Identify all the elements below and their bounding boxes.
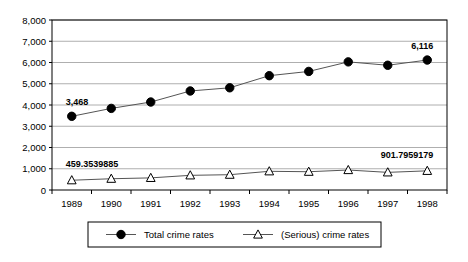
y-tick-label-5000: 5,000 <box>22 78 46 89</box>
data-label-4593539885: 459.3539885 <box>66 159 119 169</box>
data-point-marker <box>423 56 431 64</box>
series-line-1 <box>72 170 428 180</box>
data-point-marker <box>305 67 313 75</box>
y-tick-label-2000: 2,000 <box>22 142 46 153</box>
data-label-9017959179: 901.7959179 <box>381 150 434 160</box>
y-tick-label-7000: 7,000 <box>22 36 46 47</box>
chart-legend: Total crime rates(Serious) crime rates <box>88 222 381 247</box>
x-tick-label-1993: 1993 <box>219 198 240 209</box>
crime-rates-line-chart: 01,0002,0003,0004,0005,0006,0007,0008,00… <box>0 0 468 262</box>
x-tick-label-1992: 1992 <box>180 198 201 209</box>
data-point-marker <box>344 58 352 66</box>
data-label-6116: 6,116 <box>411 41 433 51</box>
data-label-3468: 3,468 <box>66 97 89 107</box>
data-point-marker <box>147 98 155 106</box>
y-tick-label-0: 0 <box>41 185 46 196</box>
x-tick-label-1991: 1991 <box>140 198 161 209</box>
y-tick-label-4000: 4,000 <box>22 100 46 111</box>
data-point-marker <box>68 112 76 120</box>
x-tick-label-1996: 1996 <box>338 198 359 209</box>
series-total-crime-rates: 3,4686,116 <box>66 41 434 120</box>
x-axis: 1989199019911992199319941995199619971998 <box>52 190 447 209</box>
x-tick-label-1997: 1997 <box>377 198 398 209</box>
x-tick-label-1989: 1989 <box>61 198 82 209</box>
data-point-marker <box>265 167 274 175</box>
data-point-marker <box>226 84 234 92</box>
legend-entry-total-crime-rates[interactable]: Total crime rates <box>106 229 214 240</box>
x-tick-label-1998: 1998 <box>417 198 438 209</box>
y-tick-label-8000: 8,000 <box>22 15 46 26</box>
data-point-marker <box>423 166 432 174</box>
data-point-marker <box>384 61 392 69</box>
data-point-marker <box>107 104 115 112</box>
x-tick-label-1995: 1995 <box>298 198 319 209</box>
legend-entry-label: Total crime rates <box>144 229 214 240</box>
y-tick-label-3000: 3,000 <box>22 121 46 132</box>
y-tick-label-1000: 1,000 <box>22 163 46 174</box>
chart-canvas: 01,0002,0003,0004,0005,0006,0007,0008,00… <box>0 0 468 262</box>
series-serious-crime-rates: 459.3539885901.7959179 <box>66 150 434 184</box>
data-point-marker <box>344 165 353 173</box>
series-line-0 <box>72 60 428 116</box>
legend-marker-filled-circle-icon <box>117 230 125 238</box>
y-tick-label-6000: 6,000 <box>22 57 46 68</box>
x-tick-label-1990: 1990 <box>101 198 122 209</box>
data-point-marker <box>186 87 194 95</box>
data-point-marker <box>265 71 273 79</box>
legend-entry-label: (Serious) crime rates <box>281 229 369 240</box>
x-tick-label-1994: 1994 <box>259 198 280 209</box>
